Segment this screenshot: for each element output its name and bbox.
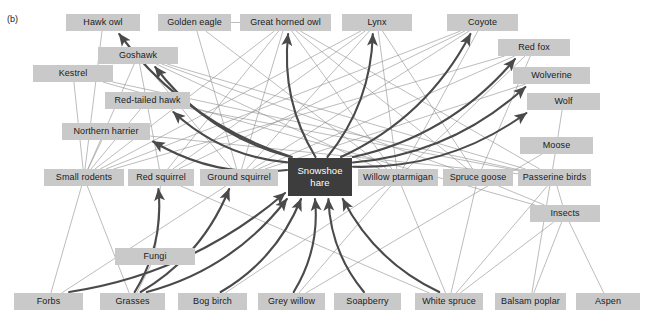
node-label: Red-tailed hawk xyxy=(114,95,180,105)
node-red_fox: Red fox xyxy=(498,39,570,56)
node-snowshoe_hare: Snowshoe hare xyxy=(288,158,352,196)
node-wolf: Wolf xyxy=(527,93,600,110)
node-label: Fungi xyxy=(143,251,166,261)
node-label: Balsam poplar xyxy=(501,296,560,306)
node-label: Grey willow xyxy=(268,296,315,306)
node-label: Golden eagle xyxy=(167,17,222,27)
link-insects-to-spruce_goose xyxy=(499,186,545,205)
node-red_squirrel: Red squirrel xyxy=(128,169,194,186)
node-great_horned_owl: Great horned owl xyxy=(240,14,331,31)
link-willow_ptarmigan-to-great_horned_owl xyxy=(292,31,392,169)
link-snowshoe_hare-to-red_tailed_hawk xyxy=(173,112,287,162)
link-red_squirrel-to-goshawk xyxy=(140,64,160,169)
node-label: Small rodents xyxy=(56,172,112,182)
node-label: Coyote xyxy=(468,17,497,27)
node-label: Kestrel xyxy=(59,68,88,78)
node-label: Wolf xyxy=(554,96,572,106)
node-label: Wolverine xyxy=(531,70,572,80)
link-white_spruce-to-passerine_birds xyxy=(456,186,547,293)
node-white_spruce: White spruce xyxy=(415,293,483,310)
node-label: Spruce goose xyxy=(450,172,507,182)
node-spruce_goose: Spruce goose xyxy=(443,169,513,186)
node-label: Moose xyxy=(543,140,571,150)
link-forbs-to-snowshoe_hare xyxy=(69,193,285,292)
node-label: Insects xyxy=(550,208,579,218)
node-label: Red squirrel xyxy=(136,172,186,182)
link-grey_willow-to-snowshoe_hare xyxy=(294,199,316,292)
node-label: Snowshoe hare xyxy=(288,165,352,189)
node-soapberry: Soapberry xyxy=(334,293,401,310)
node-label: Bog birch xyxy=(193,296,232,306)
link-white_spruce-to-insects xyxy=(460,222,554,293)
node-kestrel: Kestrel xyxy=(33,65,113,82)
node-lynx: Lynx xyxy=(342,14,412,31)
node-northern_harrier: Northern harrier xyxy=(62,123,150,140)
node-forbs: Forbs xyxy=(14,293,83,310)
node-goshawk: Goshawk xyxy=(98,47,178,64)
node-label: Soapberry xyxy=(346,296,388,306)
node-aspen: Aspen xyxy=(576,293,640,310)
link-aspen-to-insects xyxy=(569,222,604,293)
link-grasses-to-small_rodents xyxy=(87,186,129,293)
link-grasses-to-ground_squirrel xyxy=(141,189,229,292)
node-coyote: Coyote xyxy=(447,14,518,31)
link-ground_squirrel-to-goshawk xyxy=(145,64,232,169)
node-golden_eagle: Golden eagle xyxy=(158,14,231,31)
link-white_spruce-to-willow_ptarmigan xyxy=(402,186,446,293)
node-label: Grasses xyxy=(115,296,149,306)
node-label: Forbs xyxy=(37,296,61,306)
link-moose-to-wolf xyxy=(558,110,562,137)
node-willow_ptarmigan: Willow ptarmigan xyxy=(358,169,438,186)
link-willow_ptarmigan-to-red_fox xyxy=(407,56,525,169)
link-grasses-to-fungi xyxy=(137,265,151,293)
panel-label: (b) xyxy=(7,14,18,24)
link-forbs-to-small_rodents xyxy=(51,186,82,293)
node-hawk_owl: Hawk owl xyxy=(66,14,140,31)
node-bog_birch: Bog birch xyxy=(178,293,247,310)
node-red_tailed_hawk: Red-tailed hawk xyxy=(105,92,190,109)
node-label: Red fox xyxy=(518,42,550,52)
node-label: Ground squirrel xyxy=(207,172,271,182)
link-willow_ptarmigan-to-coyote xyxy=(403,31,478,169)
node-wolverine: Wolverine xyxy=(513,67,590,84)
link-soapberry-to-snowshoe_hare xyxy=(328,199,364,292)
node-label: Aspen xyxy=(595,296,621,306)
link-white_spruce-to-spruce_goose xyxy=(451,186,476,293)
node-label: Northern harrier xyxy=(73,126,138,136)
node-small_rodents: Small rodents xyxy=(44,169,124,186)
node-fungi: Fungi xyxy=(115,248,195,265)
link-small_rodents-to-northern_harrier xyxy=(88,140,102,169)
link-insects-to-passerine_birds xyxy=(557,186,563,205)
node-grey_willow: Grey willow xyxy=(258,293,325,310)
node-balsam_poplar: Balsam poplar xyxy=(495,293,566,310)
node-passerine_birds: Passerine birds xyxy=(518,169,591,186)
link-white_spruce-to-snowshoe_hare xyxy=(343,199,439,292)
node-label: Willow ptarmigan xyxy=(363,172,433,182)
food-web-figure: (b) Hawk owlGolden eagleGreat horned owl… xyxy=(0,0,645,321)
node-label: Passerine birds xyxy=(523,172,587,182)
node-label: Hawk owl xyxy=(83,17,122,27)
node-label: Great horned owl xyxy=(250,17,321,27)
node-ground_squirrel: Ground squirrel xyxy=(200,169,278,186)
node-moose: Moose xyxy=(520,137,593,154)
node-label: Goshawk xyxy=(119,50,157,60)
node-grasses: Grasses xyxy=(100,293,165,310)
node-label: White spruce xyxy=(422,296,476,306)
node-label: Lynx xyxy=(367,17,386,27)
node-insects: Insects xyxy=(530,205,600,222)
